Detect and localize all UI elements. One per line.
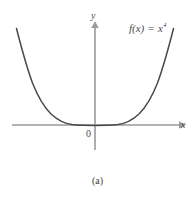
y-axis-label: y <box>91 11 95 21</box>
function-label-equals: = <box>144 22 158 34</box>
function-label-prefix: f(x) <box>129 22 144 34</box>
figure-caption: (a) <box>0 176 195 186</box>
function-equation-label: f(x) = x4 <box>129 22 166 34</box>
y-axis-arrowhead <box>91 21 98 28</box>
figure-quartic-graph: y x 0 f(x) = x4 (a) <box>0 0 195 200</box>
origin-label: 0 <box>86 129 91 139</box>
x-axis-label: x <box>181 120 185 130</box>
function-label-exponent: 4 <box>163 21 167 29</box>
